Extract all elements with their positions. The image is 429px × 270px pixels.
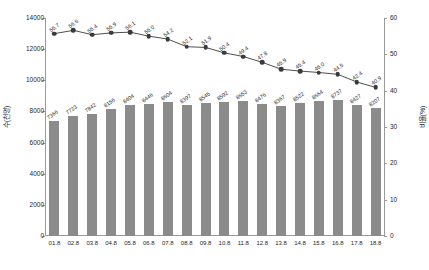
y-axis-left-tick-label: 12000 xyxy=(4,45,44,52)
x-axis-tick-label: 14.8 xyxy=(294,240,306,246)
y-axis-left-tick-label: 2000 xyxy=(4,201,44,208)
x-axis-tick-label: 07.8 xyxy=(162,240,174,246)
x-axis-tick-label: 01.8 xyxy=(49,240,61,246)
line-marker xyxy=(335,72,340,77)
y-axis-right-tick-label: 50 xyxy=(390,50,429,57)
plot-area: 02000400060008000100001200014000 0102030… xyxy=(45,18,385,236)
y-axis-right-tick-label: 40 xyxy=(390,87,429,94)
x-axis-tick-label: 02.8 xyxy=(67,240,79,246)
x-axis-tick-label: 06.8 xyxy=(143,240,155,246)
y-axis-left-tick-label: 8000 xyxy=(4,107,44,114)
line-series xyxy=(45,18,385,236)
x-axis-tick-label: 13.8 xyxy=(275,240,287,246)
line-marker xyxy=(128,30,133,35)
x-axis-tick-label: 09.8 xyxy=(200,240,212,246)
y-axis-left-tick-label: 0 xyxy=(4,232,44,239)
line-marker xyxy=(71,28,76,33)
x-axis-tick-label: 11.8 xyxy=(238,240,249,246)
x-axis-tick-label: 08.8 xyxy=(181,240,193,246)
x-axis-tick-label: 05.8 xyxy=(124,240,136,246)
x-axis-tick-label: 12.8 xyxy=(256,240,268,246)
y-axis-left-tick-label: 6000 xyxy=(4,139,44,146)
y-axis-left-title: 수(천명) xyxy=(1,95,11,139)
y-axis-left-tick-label: 14000 xyxy=(4,14,44,21)
y-axis-right-tick xyxy=(384,236,387,237)
y-axis-left-tick-label: 4000 xyxy=(4,170,44,177)
y-axis-right-tick-label: 60 xyxy=(390,14,429,21)
line-marker xyxy=(279,67,284,72)
y-axis-right-tick-label: 10 xyxy=(390,196,429,203)
x-axis-tick-label: 18.8 xyxy=(370,240,382,246)
x-axis-tick-label: 10.8 xyxy=(219,240,231,246)
x-axis-tick-label: 04.8 xyxy=(105,240,117,246)
y-axis-right-tick-label: 30 xyxy=(390,123,429,130)
y-axis-right-title: 비율(%) xyxy=(417,95,427,139)
combo-chart: 수(천명) 비율(%) 0200040006000800010000120001… xyxy=(0,0,429,270)
y-axis-right-tick-label: 20 xyxy=(390,159,429,166)
line-marker xyxy=(222,51,227,56)
y-axis-left-tick-label: 10000 xyxy=(4,76,44,83)
y-axis-right-tick-label: 0 xyxy=(390,232,429,239)
line-marker xyxy=(260,60,265,65)
x-axis-tick-label: 17.8 xyxy=(351,240,363,246)
x-axis-tick-label: 03.8 xyxy=(86,240,98,246)
x-axis-tick-label: 15.8 xyxy=(313,240,325,246)
line-path xyxy=(54,30,375,87)
x-axis-tick-label: 16.8 xyxy=(332,240,344,246)
